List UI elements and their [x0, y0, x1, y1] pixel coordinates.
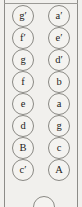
- partial-note-circle[interactable]: [33, 196, 55, 207]
- note-circle-right-2[interactable]: d′: [48, 49, 70, 71]
- note-circle-left-7[interactable]: c′: [12, 159, 34, 181]
- note-label-left-5: d: [20, 120, 25, 131]
- note-label-left-4: e: [21, 98, 26, 109]
- note-circle-left-3[interactable]: f: [12, 71, 34, 93]
- note-label-left-0: g′: [19, 10, 27, 21]
- note-label-right-3: b: [56, 76, 61, 87]
- note-label-left-1: f′: [20, 32, 26, 43]
- note-circle-right-3[interactable]: b: [48, 71, 70, 93]
- panel-right-border: [77, 0, 78, 207]
- note-label-right-2: d′: [55, 54, 63, 65]
- note-label-right-7: A: [55, 164, 63, 175]
- note-circle-left-6[interactable]: B: [12, 137, 34, 159]
- note-circle-right-0[interactable]: a′: [48, 5, 70, 27]
- note-circle-right-7[interactable]: A: [48, 159, 70, 181]
- note-label-left-6: B: [19, 142, 26, 153]
- note-circle-right-6[interactable]: c: [48, 137, 70, 159]
- note-label-left-2: g: [20, 54, 25, 65]
- note-label-left-7: c′: [20, 164, 27, 175]
- note-circle-right-5[interactable]: g: [48, 115, 70, 137]
- note-circle-left-5[interactable]: d: [12, 115, 34, 137]
- note-circle-right-1[interactable]: e′: [48, 27, 70, 49]
- note-label-right-5: g: [56, 120, 61, 131]
- panel-left-border: [4, 0, 5, 207]
- note-label-right-1: e′: [56, 32, 63, 43]
- panel-top-border: [4, 3, 78, 4]
- note-circle-left-1[interactable]: f′: [12, 27, 34, 49]
- note-circle-left-4[interactable]: e: [12, 93, 34, 115]
- note-label-left-3: f: [21, 76, 25, 87]
- note-circle-right-4[interactable]: a: [48, 93, 70, 115]
- note-label-right-0: a′: [56, 10, 63, 21]
- note-label-right-4: a: [57, 98, 62, 109]
- note-circle-left-2[interactable]: g: [12, 49, 34, 71]
- note-label-panel: g′ f′ g f e d B c′ a′ e′ d′ b a g c A: [0, 0, 82, 207]
- note-circle-left-0[interactable]: g′: [12, 5, 34, 27]
- note-label-right-6: c: [57, 142, 62, 153]
